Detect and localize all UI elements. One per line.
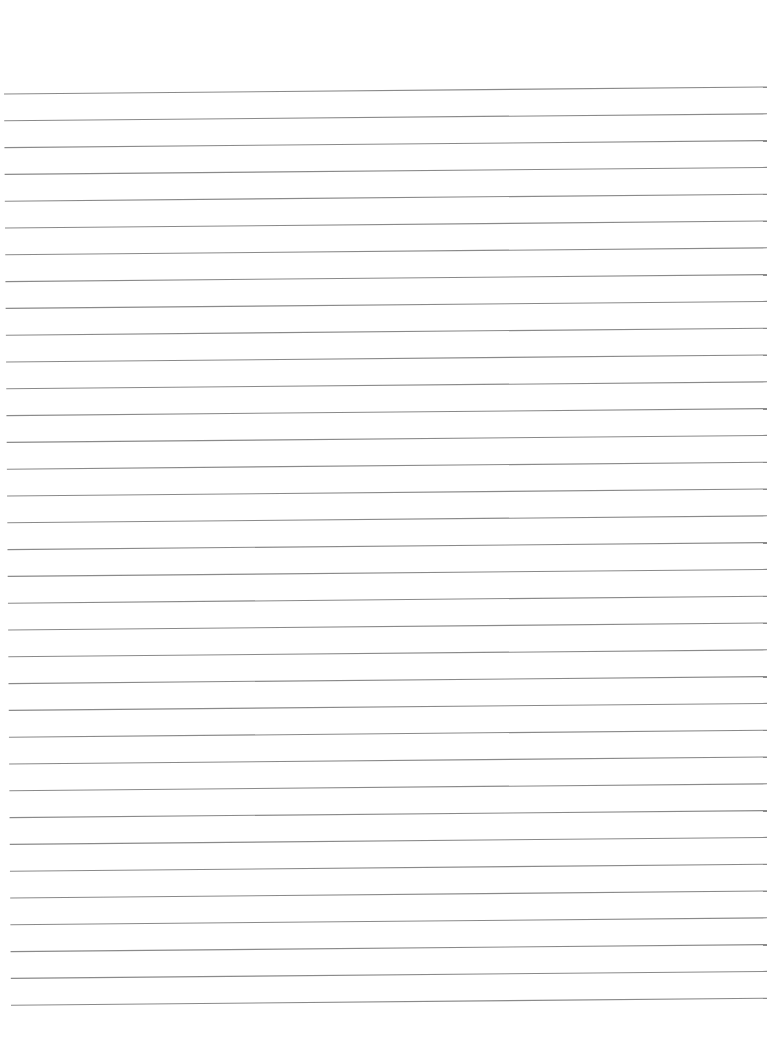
ruled-line xyxy=(6,328,767,335)
ruled-line xyxy=(8,543,767,550)
ruled-line xyxy=(5,221,767,228)
ruled-line xyxy=(7,516,767,523)
ruled-line xyxy=(8,623,767,630)
ruled-line xyxy=(11,945,767,952)
ruled-line xyxy=(10,811,767,818)
ruled-line xyxy=(5,194,767,201)
ruled-line xyxy=(9,703,767,710)
ruled-line xyxy=(8,650,767,657)
ruled-line xyxy=(10,864,767,871)
ruled-line xyxy=(9,677,767,684)
ruled-line xyxy=(10,837,767,844)
ruled-line xyxy=(11,971,767,978)
ruled-line xyxy=(4,141,767,148)
ruled-line xyxy=(9,784,767,791)
ruled-line xyxy=(4,114,767,121)
ruled-line xyxy=(6,301,767,308)
ruled-line xyxy=(5,275,767,282)
ruled-line xyxy=(5,167,767,174)
ruled-line xyxy=(5,248,767,255)
ruled-line xyxy=(9,730,767,737)
ruled-line xyxy=(8,596,767,603)
ruled-line xyxy=(6,382,767,389)
ruled-line xyxy=(6,355,767,362)
ruled-line xyxy=(7,489,767,496)
ruled-line xyxy=(4,87,767,94)
ruled-lines xyxy=(0,0,767,1049)
ruled-line xyxy=(9,757,767,764)
lined-paper-sheet xyxy=(0,0,767,1049)
ruled-line xyxy=(10,891,767,898)
ruled-line xyxy=(6,409,767,416)
ruled-line xyxy=(8,569,767,576)
ruled-line xyxy=(7,435,767,442)
ruled-line xyxy=(11,998,767,1005)
ruled-line xyxy=(7,462,767,469)
ruled-line xyxy=(10,918,767,925)
